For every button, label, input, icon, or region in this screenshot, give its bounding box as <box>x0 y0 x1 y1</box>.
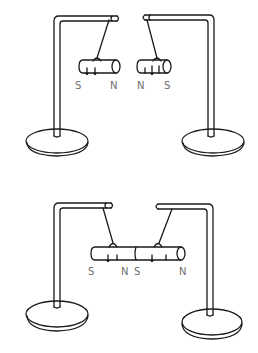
bottom-right-magnet-south-label: S <box>134 266 140 277</box>
bottom-right-stand <box>156 204 242 339</box>
magnets-diagram: S N N S S N S N <box>0 0 258 353</box>
top-scene-labels: S N N S <box>75 80 170 91</box>
bottom-left-magnet-north-label: N <box>121 266 128 277</box>
bottom-scene-labels: S N S N <box>88 266 186 277</box>
top-left-magnet <box>79 20 120 75</box>
top-right-magnet-north-label: N <box>137 80 144 91</box>
top-right-magnet-south-label: S <box>164 80 170 91</box>
bottom-right-magnet-north-label: N <box>179 266 186 277</box>
top-left-magnet-south-label: S <box>75 80 81 91</box>
bottom-left-stand <box>26 203 113 331</box>
top-left-magnet-north-label: N <box>110 80 117 91</box>
bottom-joined-magnets <box>91 208 185 262</box>
bottom-left-magnet-south-label: S <box>88 266 94 277</box>
top-left-stand <box>26 16 119 156</box>
top-right-magnet <box>137 20 171 75</box>
top-scene <box>26 15 244 156</box>
top-right-stand <box>143 15 244 156</box>
